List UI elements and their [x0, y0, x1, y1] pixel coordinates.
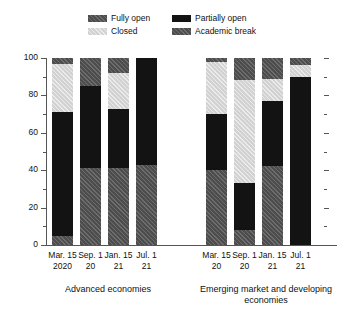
legend-swatch-fully-open-icon [88, 15, 107, 22]
y-tick-minor [324, 77, 327, 78]
bar-jul-1-21 [136, 58, 157, 245]
bar-segment-academic-break [136, 165, 157, 245]
legend-item-academic-break: Academic break [172, 27, 278, 36]
bar-segment-fully-open [108, 58, 129, 73]
x-axis-label-line2: 21 [124, 261, 170, 272]
bar-segment-academic-break [206, 170, 227, 245]
legend-item-fully-open: Fully open [88, 14, 172, 23]
bar-segment-academic-break [80, 168, 101, 245]
legend-label-partially-open: Partially open [195, 14, 247, 23]
x-axis-label-line2: 21 [278, 261, 324, 272]
bar-mar-15-2020 [52, 58, 73, 245]
group-label-emerging-economies: Emerging market and developing economies [184, 284, 348, 306]
chart-legend: Fully open Partially open Closed Academi… [88, 12, 278, 38]
y-tick-major [41, 208, 46, 209]
y-axis-line [46, 58, 47, 245]
legend-swatch-closed-icon [88, 28, 107, 35]
bar-segment-closed [52, 64, 73, 113]
y-tick-minor [43, 226, 46, 227]
y-axis-label: 100 [14, 53, 38, 62]
bar-segment-fully-open [290, 58, 311, 65]
legend-swatch-partially-open-icon [172, 15, 191, 22]
y-axis-label: 60 [14, 128, 38, 137]
bar-segment-academic-break [234, 230, 255, 245]
bar-segment-partially-open [234, 183, 255, 230]
y-tick-minor [324, 226, 327, 227]
bar-segment-fully-open [80, 58, 101, 86]
legend-item-partially-open: Partially open [172, 14, 278, 23]
bar-segment-fully-open [234, 58, 255, 80]
y-tick-minor [324, 152, 327, 153]
bar-segment-academic-break [52, 236, 73, 245]
bar-jul-1-21 [290, 58, 311, 245]
legend-label-closed: Closed [111, 27, 137, 36]
bar-segment-closed [262, 79, 283, 101]
y-tick-major [324, 58, 329, 59]
bar-segment-partially-open [108, 109, 129, 169]
bar-sep-1-20 [80, 58, 101, 245]
y-axis-label: 20 [14, 203, 38, 212]
y-tick-major [324, 95, 329, 96]
y-tick-minor [43, 152, 46, 153]
y-tick-major [41, 170, 46, 171]
bar-segment-partially-open [136, 58, 157, 165]
bar-segment-partially-open [52, 112, 73, 235]
bar-mar-15-20 [206, 58, 227, 245]
bar-segment-closed [290, 65, 311, 76]
y-tick-minor [324, 114, 327, 115]
y-tick-major [324, 245, 329, 246]
group-label-advanced-economies: Advanced economies [28, 284, 188, 295]
bar-segment-fully-open [262, 58, 283, 79]
y-tick-major [41, 95, 46, 96]
legend-item-closed: Closed [88, 27, 172, 36]
y-axis-label: 0 [14, 240, 38, 249]
y-tick-major [324, 208, 329, 209]
y-tick-major [324, 170, 329, 171]
y-tick-major [324, 133, 329, 134]
x-axis-label: Jul. 121 [278, 250, 324, 271]
y-tick-major [41, 58, 46, 59]
bar-segment-partially-open [80, 86, 101, 168]
bar-segment-closed [206, 62, 227, 114]
y-tick-minor [43, 77, 46, 78]
x-axis-label: Jul. 121 [124, 250, 170, 271]
y-tick-major [41, 133, 46, 134]
bar-segment-closed [234, 80, 255, 183]
bar-jan-15-21 [262, 58, 283, 245]
x-axis-label-line1: Jul. 1 [290, 250, 310, 260]
x-axis-label-line1: Jul. 1 [136, 250, 156, 260]
bar-sep-1-20 [234, 58, 255, 245]
bar-segment-partially-open [290, 77, 311, 245]
legend-label-fully-open: Fully open [111, 14, 150, 23]
y-axis-label: 80 [14, 90, 38, 99]
y-tick-major [41, 245, 46, 246]
bar-jan-15-21 [108, 58, 129, 245]
y-tick-minor [324, 189, 327, 190]
bar-segment-academic-break [262, 166, 283, 245]
bar-segment-partially-open [206, 114, 227, 170]
bar-segment-partially-open [262, 101, 283, 166]
y-axis-label: 40 [14, 165, 38, 174]
y-tick-minor [43, 114, 46, 115]
stacked-bar-chart: Fully open Partially open Closed Academi… [0, 0, 348, 318]
plot-area [46, 58, 324, 245]
bar-segment-closed [108, 73, 129, 109]
legend-swatch-academic-break-icon [172, 28, 191, 35]
x-axis-line [45, 245, 337, 246]
y-tick-minor [43, 189, 46, 190]
legend-label-academic-break: Academic break [195, 27, 256, 36]
bar-segment-academic-break [108, 168, 129, 245]
